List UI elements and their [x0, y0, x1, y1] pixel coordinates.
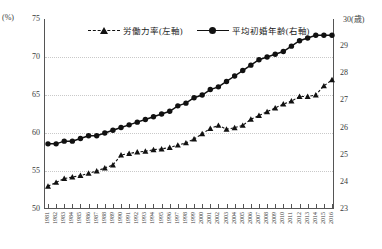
x-axis-tick-label: 2015 — [320, 212, 326, 224]
data-point-marker — [215, 122, 221, 127]
x-axis-tick-label: 1992 — [133, 212, 139, 224]
data-point-marker — [143, 117, 148, 122]
x-axis-tick-label: 1984 — [68, 212, 74, 224]
x-axis-tick-label: 1987 — [93, 212, 99, 224]
data-point-marker — [216, 84, 221, 89]
x-axis-tick-label: 1991 — [125, 212, 131, 224]
data-point-marker — [70, 138, 75, 143]
x-axis-tick-label: 1988 — [101, 212, 107, 224]
data-point-marker — [305, 35, 310, 40]
chart-legend: 労働力率(左軸) 平均初婚年齢(右軸) — [88, 24, 309, 36]
x-axis-tick-label: 1993 — [141, 212, 147, 224]
x-axis-tick-label: 2007 — [255, 212, 261, 224]
data-point-marker — [281, 49, 286, 54]
data-point-marker — [313, 33, 318, 38]
left-axis-tick-label: 75 — [14, 14, 40, 23]
right-axis-tick-label: 29 — [340, 41, 366, 50]
data-point-marker — [321, 33, 326, 38]
x-axis-tick-label: 2009 — [271, 212, 277, 224]
data-point-marker — [167, 144, 173, 149]
data-point-marker — [199, 92, 204, 97]
x-axis-tick-label: 2011 — [287, 212, 293, 224]
legend-label-labor-force-rate: 労働力率(左軸) — [123, 24, 183, 36]
series-mean-age-first-marriage — [45, 33, 334, 147]
data-point-marker — [110, 162, 116, 167]
data-point-marker — [248, 116, 254, 121]
x-axis-tick-label: 2005 — [239, 212, 245, 224]
x-axis-tick-label: 2003 — [223, 212, 229, 224]
x-axis-tick-label: 2002 — [214, 212, 220, 224]
data-point-marker — [191, 95, 196, 100]
x-axis-tick-label: 1985 — [76, 212, 82, 224]
x-axis-tick-label: 1982 — [52, 212, 58, 224]
data-point-marker — [240, 68, 245, 73]
x-axis-tick-label: 1981 — [44, 212, 50, 224]
right-axis-tick-label: 24 — [340, 177, 366, 186]
data-point-marker — [45, 183, 51, 188]
data-point-marker — [53, 179, 59, 184]
data-point-marker — [183, 100, 188, 105]
data-point-marker — [199, 131, 205, 136]
right-axis-tick-label: 23 — [340, 204, 366, 213]
series-layer — [45, 19, 335, 209]
data-point-marker — [297, 38, 302, 43]
data-point-marker — [151, 114, 156, 119]
circle-solid-marker — [197, 26, 229, 35]
data-point-marker — [110, 128, 115, 133]
data-point-marker — [78, 136, 83, 141]
series-line — [48, 80, 332, 186]
x-axis-tick-label: 1994 — [149, 212, 155, 224]
triangle-dashed-marker — [88, 26, 120, 35]
left-axis-tick-label: 70 — [14, 52, 40, 61]
chart-container: (%) 30(歳) 757065605550 29282726252423 19… — [0, 0, 382, 249]
left-axis-tick-label: 65 — [14, 90, 40, 99]
left-axis-tick-label: 55 — [14, 166, 40, 175]
data-point-marker — [45, 141, 50, 146]
data-point-marker — [305, 94, 311, 99]
data-point-marker — [289, 43, 294, 48]
legend-item-mean-age-first-marriage: 平均初婚年齢(右軸) — [197, 24, 310, 36]
x-axis-tick-label: 1996 — [166, 212, 172, 224]
data-point-marker — [135, 119, 140, 124]
legend-label-mean-age-first-marriage: 平均初婚年齢(右軸) — [232, 24, 310, 36]
data-point-marker — [208, 87, 213, 92]
data-point-marker — [126, 122, 131, 127]
x-axis-tick-label: 1990 — [117, 212, 123, 224]
x-axis-tick-label: 1998 — [182, 212, 188, 224]
x-axis-tick-label: 2001 — [206, 212, 212, 224]
x-axis-tick-label: 2010 — [279, 212, 285, 224]
left-axis-tick-label: 60 — [14, 128, 40, 137]
data-point-marker — [248, 62, 253, 67]
x-axis-tick-label: 2013 — [304, 212, 310, 224]
x-axis-tick-label: 1995 — [158, 212, 164, 224]
data-point-marker — [175, 142, 181, 147]
x-axis-tick-label: 2004 — [231, 212, 237, 224]
right-axis-tick-label: 27 — [340, 95, 366, 104]
data-point-marker — [175, 103, 180, 108]
data-point-marker — [102, 130, 107, 135]
right-axis-tick-label: 26 — [340, 123, 366, 132]
series-line — [48, 35, 332, 144]
x-axis-tick-label: 2014 — [312, 212, 318, 224]
x-axis-tick-label: 1997 — [174, 212, 180, 224]
data-point-marker — [256, 113, 262, 118]
data-point-marker — [256, 57, 261, 62]
x-axis-tick-label: 1983 — [60, 212, 66, 224]
data-point-marker — [183, 140, 189, 145]
data-point-marker — [94, 133, 99, 138]
data-point-marker — [86, 170, 92, 175]
data-point-marker — [273, 52, 278, 57]
plot-area — [44, 19, 334, 209]
left-axis-tick-label: 50 — [14, 204, 40, 213]
x-axis-tick-label: 1989 — [109, 212, 115, 224]
data-point-marker — [207, 125, 213, 130]
data-point-marker — [118, 125, 123, 130]
data-point-marker — [159, 111, 164, 116]
data-point-marker — [313, 92, 319, 97]
data-point-marker — [329, 77, 335, 82]
data-point-marker — [191, 136, 197, 141]
data-point-marker — [126, 151, 132, 156]
right-axis-tick-label: 28 — [340, 68, 366, 77]
data-point-marker — [272, 105, 278, 110]
data-point-marker — [77, 173, 83, 178]
